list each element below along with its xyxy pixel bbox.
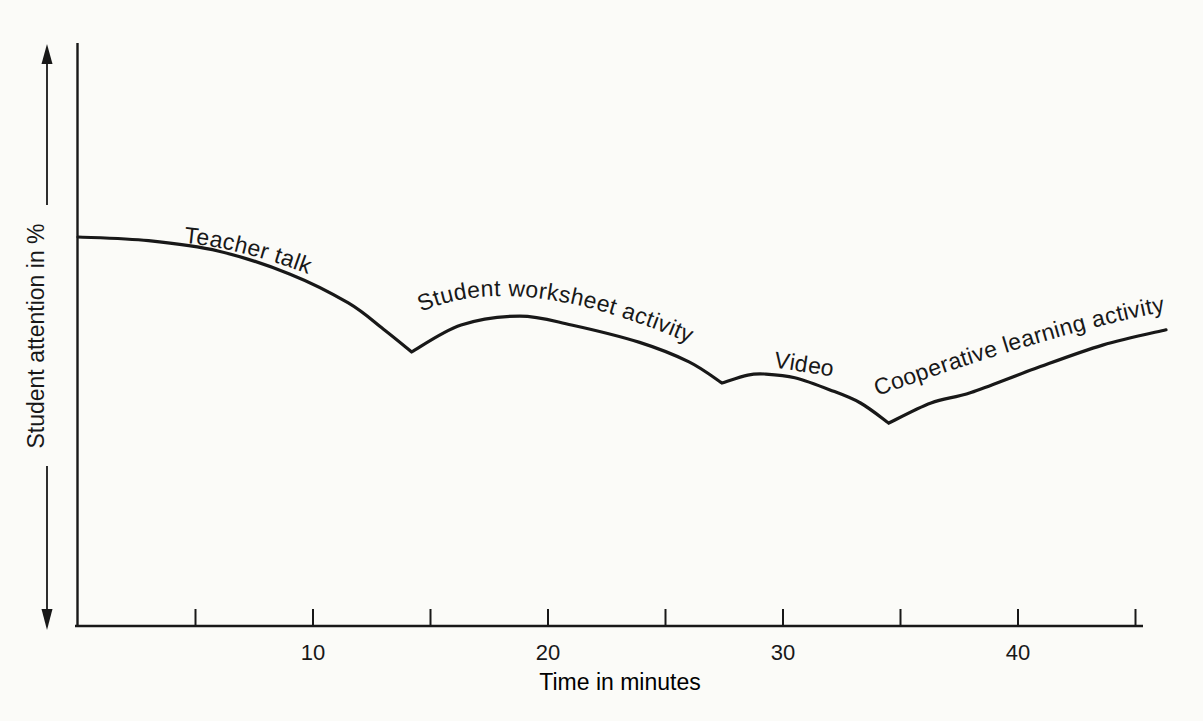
up-arrow-icon [42,44,53,64]
segment-label: Cooperative learning activity [870,291,1167,401]
attention-curve [78,237,1166,423]
segment-labels: Teacher talkStudent worksheet activityVi… [183,222,1203,401]
x-tick-label: 30 [771,640,795,665]
segment-label: Teacher talk [183,222,316,279]
segment-label: Student worksheet activity [413,275,697,348]
segment-label-text: Teacher talk [183,222,316,279]
attention-curve-line [78,237,1166,423]
x-axis-title: Time in minutes [539,669,700,695]
y-axis-title-group: Student attention in % [23,44,53,630]
segment-label-text: Cooperative learning activity [870,291,1167,401]
x-tick-labels: 10203040 [301,640,1030,665]
y-axis-title: Student attention in % [23,223,49,448]
x-axis-ticks [196,609,1136,626]
figure: Teacher talkStudent worksheet activityVi… [0,0,1203,721]
x-tick-label: 10 [301,640,325,665]
x-tick-label: 20 [536,640,560,665]
down-arrow-icon [42,609,53,630]
attention-chart: Teacher talkStudent worksheet activityVi… [0,0,1203,721]
segment-label-text: Student worksheet activity [413,275,697,348]
x-tick-label: 40 [1006,640,1030,665]
